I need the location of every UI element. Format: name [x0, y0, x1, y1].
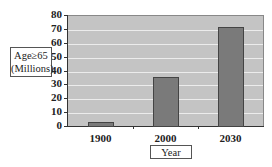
bar-1900: [88, 122, 114, 127]
y-tick-label: 80: [42, 9, 62, 20]
y-tick: [64, 112, 68, 113]
y-tick: [64, 84, 68, 85]
y-axis-title-line2: (Millions): [11, 62, 51, 75]
y-tick: [64, 71, 68, 72]
bar-2030: [218, 27, 244, 127]
y-axis-title: Age≥65 (Millions): [10, 47, 52, 77]
x-tick-label: 2000: [146, 132, 186, 144]
y-tick: [64, 43, 68, 44]
bar-2000: [153, 77, 179, 127]
y-tick-label: 10: [42, 106, 62, 117]
y-tick-label: 30: [42, 78, 62, 89]
x-tick: [198, 126, 199, 129]
y-tick: [64, 126, 68, 127]
x-tick: [133, 126, 134, 129]
x-tick-label: 2030: [211, 132, 251, 144]
y-tick-label: 0: [42, 120, 62, 131]
y-tick: [64, 29, 68, 30]
y-tick-label: 70: [42, 23, 62, 34]
x-tick-label: 1900: [81, 132, 121, 144]
y-axis-title-line1: Age≥65: [11, 49, 51, 62]
x-axis-title: Year: [150, 145, 192, 159]
y-tick-label: 20: [42, 92, 62, 103]
y-tick: [64, 57, 68, 58]
y-tick: [64, 98, 68, 99]
y-tick: [64, 15, 68, 16]
